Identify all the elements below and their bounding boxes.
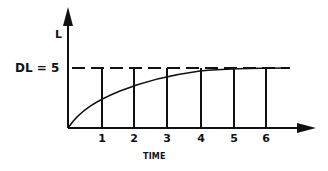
y-axis xyxy=(63,7,73,128)
x-tick-4: 4 xyxy=(195,132,207,145)
x-axis-label: TIME xyxy=(143,152,166,161)
time-markers xyxy=(102,68,266,128)
x-tick-1: 1 xyxy=(96,132,108,145)
dl-label: DL = 5 xyxy=(15,61,59,75)
x-tick-2: 2 xyxy=(128,132,140,145)
y-axis-arrow-icon xyxy=(63,7,73,26)
x-tick-5: 5 xyxy=(228,132,240,145)
x-tick-6: 6 xyxy=(260,132,272,145)
y-axis-label: L xyxy=(55,28,62,41)
x-axis-arrow-icon xyxy=(297,123,316,133)
saturation-diagram xyxy=(0,0,328,171)
x-tick-3: 3 xyxy=(161,132,173,145)
